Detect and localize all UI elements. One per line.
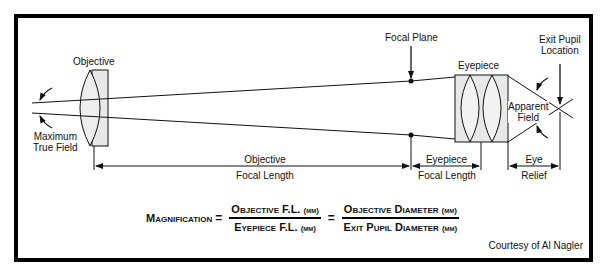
true-field-arrow-top-icon — [40, 88, 52, 100]
eye-relief-top: Eye — [510, 154, 558, 165]
formula-equals-2: = — [328, 211, 335, 225]
formula-lhs: Magnification — [146, 212, 212, 224]
eyepiece-fl-bottom: Focal Length — [411, 170, 483, 181]
apparent-field-arrow-bottom-icon — [537, 126, 548, 138]
exit-pupil-location-label: Exit Pupil Location — [539, 34, 581, 56]
objective-lens-group — [80, 70, 108, 146]
focal-point-bottom — [409, 133, 414, 138]
focal-point-top — [409, 79, 414, 84]
objective-fl-bottom: Focal Length — [220, 170, 310, 181]
eye-relief-bottom: Relief — [510, 170, 558, 181]
max-true-field-label: Maximum True Field — [33, 131, 78, 153]
focal-to-eyepiece-rays — [411, 77, 455, 139]
true-field-arrow-bottom-icon — [40, 116, 52, 128]
focal-plane-label: Focal Plane — [385, 32, 438, 43]
formula-equals-1: = — [215, 211, 222, 225]
magnification-formula: Magnification = Objective F.L. (mm) Eyep… — [146, 203, 463, 233]
objective-fl-top: Objective — [225, 154, 305, 165]
apparent-field-label: Apparent Field — [508, 101, 549, 123]
eyepiece-label: Eyepiece — [458, 60, 499, 71]
eyepiece-lens-group — [455, 75, 508, 142]
fraction-focal-lengths: Objective F.L. (mm) Eyepiece F.L. (mm) — [229, 203, 320, 233]
objective-label: Objective — [73, 56, 115, 67]
fraction-diameters: Objective Diameter (mm) Exit Pupil Diame… — [342, 203, 459, 233]
eyepiece-fl-top: Eyepiece — [413, 154, 480, 165]
credit-text: Courtesy of Al Nagler — [489, 240, 584, 251]
apparent-field-arrow-top-icon — [537, 78, 548, 90]
